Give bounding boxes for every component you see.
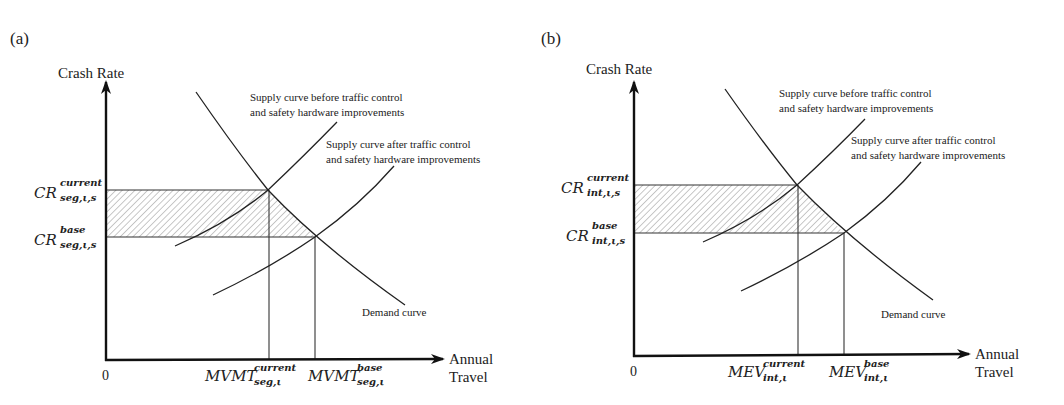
svg-text:current: current [60,177,103,188]
supply-before-annotation-line1: Supply curve before traffic control [779,87,932,99]
demand-curve-annotation: Demand curve [362,306,427,318]
svg-text:seg,ι,s: seg,ι,s [60,239,97,251]
y-axis-label: Crash Rate [58,65,125,81]
svg-text:int,ι: int,ι [763,372,787,384]
svg-text:MVMT: MVMT [307,367,361,385]
x-axis-arrow [633,354,969,356]
svg-text:CR: CR [561,179,584,197]
x-axis-label-line1: Annual [975,346,1019,362]
svg-text:CR: CR [34,184,57,202]
origin-label: 0 [102,368,109,383]
supply-after-annotation-line2: and safety hardware improvements [851,149,1005,161]
svg-text:MEV: MEV [727,363,767,381]
svg-text:CR: CR [566,227,589,245]
svg-text:base: base [357,362,382,373]
cr-base-label: CR base int,ι,s [566,220,625,247]
x-axis-arrow [105,359,443,360]
svg-text:current: current [587,172,630,183]
mev-base-label: MEV base int,ι [828,358,889,384]
supply-after-annotation-line1: Supply curve after traffic control [851,134,996,146]
panel-label: (b) [541,29,561,48]
origin-label: 0 [630,364,637,379]
mev-current-label: MEV current int,ι [727,358,806,384]
svg-text:int,ι,s: int,ι,s [587,187,620,199]
svg-text:CR: CR [34,231,57,249]
svg-text:base: base [60,224,85,235]
panel-b: (b) Crash Rate Annual Travel 0 CR curren… [541,29,1019,384]
demand-curve-annotation: Demand curve [881,308,946,320]
svg-text:base: base [592,220,617,231]
svg-text:seg,ι: seg,ι [254,376,281,388]
svg-text:seg,ι: seg,ι [357,376,384,388]
hatched-safety-benefit-area [106,190,315,237]
cr-current-label: CR current seg,ι,s [34,177,103,204]
svg-text:seg,ι,s: seg,ι,s [60,192,97,204]
svg-text:MVMT: MVMT [204,367,258,385]
panel-label: (a) [10,29,29,48]
svg-text:int,ι: int,ι [864,372,888,384]
x-axis-label-line1: Annual [449,351,493,367]
y-axis-label: Crash Rate [586,61,653,77]
cr-current-label: CR current int,ι,s [561,172,630,199]
svg-text:current: current [763,358,806,369]
panel-a: (a) Crash Rate Annual Travel 0 CR curren… [10,29,493,388]
x-axis-label-line2: Travel [449,369,488,385]
svg-text:base: base [864,358,889,369]
svg-text:MEV: MEV [828,363,868,381]
supply-before-annotation-line1: Supply curve before traffic control [250,91,403,103]
supply-before-annotation-line2: and safety hardware improvements [250,106,404,118]
svg-text:current: current [254,362,297,373]
supply-after-annotation-line1: Supply curve after traffic control [326,138,471,150]
hatched-safety-benefit-area [634,185,844,233]
svg-text:int,ι,s: int,ι,s [592,235,625,247]
mvmt-current-label: MVMT current seg,ι [204,362,297,388]
figure-canvas: (a) Crash Rate Annual Travel 0 CR curren… [0,0,1064,405]
mvmt-base-label: MVMT base seg,ι [307,362,384,388]
cr-base-label: CR base seg,ι,s [34,224,97,251]
supply-after-annotation-line2: and safety hardware improvements [326,153,480,165]
supply-before-annotation-line2: and safety hardware improvements [779,102,933,114]
x-axis-label-line2: Travel [975,364,1014,380]
